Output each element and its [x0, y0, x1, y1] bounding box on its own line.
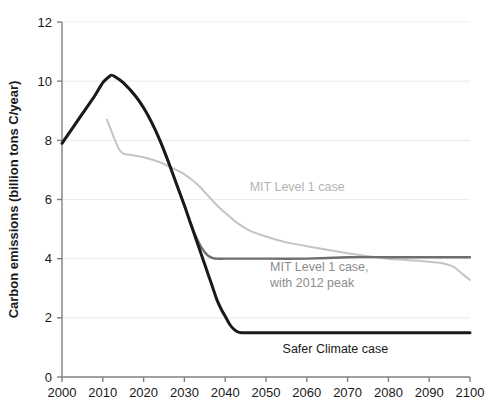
y-tick-label-4: 4	[45, 251, 52, 266]
x-tick-label-2010: 2010	[88, 385, 117, 400]
y-tick-label-6: 6	[45, 192, 52, 207]
y-axis-title: Carbon emissions (billion tons C/year)	[6, 81, 21, 319]
y-tick-label-8: 8	[45, 133, 52, 148]
annot-mit-2012-peak-line2: with 2012 peak	[269, 276, 355, 290]
x-tick-label-2040: 2040	[211, 385, 240, 400]
y-tick-label-10: 10	[38, 74, 52, 89]
x-tick-label-2080: 2080	[374, 385, 403, 400]
y-tick-label-0: 0	[45, 370, 52, 385]
annot-mit-level1: MIT Level 1 case	[250, 180, 345, 194]
x-tick-label-2100: 2100	[456, 385, 485, 400]
annot-mit-2012-peak-line1: MIT Level 1 case,	[270, 260, 368, 274]
x-tick-label-2090: 2090	[415, 385, 444, 400]
x-tick-label-2030: 2030	[170, 385, 199, 400]
x-tick-label-2050: 2050	[252, 385, 281, 400]
annot-safer-climate: Safer Climate case	[283, 342, 389, 356]
x-tick-label-2070: 2070	[333, 385, 362, 400]
x-axis-tick-labels: 2000201020202030204020502060207020802090…	[48, 385, 485, 400]
x-tick-label-2000: 2000	[48, 385, 77, 400]
y-tick-label-2: 2	[45, 310, 52, 325]
x-tick-label-2060: 2060	[292, 385, 321, 400]
x-tick-label-2020: 2020	[129, 385, 158, 400]
y-tick-label-12: 12	[38, 15, 52, 30]
emissions-line-chart: 2000201020202030204020502060207020802090…	[0, 0, 486, 418]
y-axis-title-text: Carbon emissions (billion tons C/year)	[6, 81, 21, 319]
chart-background	[0, 0, 486, 418]
chart-container: 2000201020202030204020502060207020802090…	[0, 0, 486, 418]
